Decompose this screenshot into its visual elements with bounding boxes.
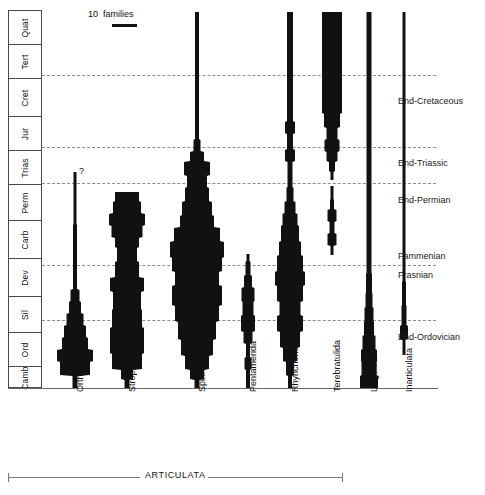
timescale-period-jur: Jur [9, 117, 41, 151]
extinction-event-label: End-Cretaceous [398, 96, 463, 106]
timescale-period-tert: Tert [9, 45, 41, 79]
timescale-period-cret: Cret [9, 79, 41, 117]
uncertainty-question-mark: ? [79, 166, 84, 176]
plot-area [42, 10, 436, 388]
period-label: Perm [20, 192, 30, 213]
period-label: Dev [20, 270, 30, 286]
period-label: Trias [20, 158, 30, 178]
bracket-tick-right [342, 473, 343, 482]
timescale-period-carb: Carb [9, 221, 41, 259]
timescale-period-perm: Perm [9, 185, 41, 221]
extinction-event-label: Fammenian [398, 251, 446, 261]
period-label: Camb [20, 366, 30, 389]
geologic-timescale-axis: QuatTertCretJurTriasPermCarbDevSilOrdCam… [8, 10, 42, 388]
extinction-event-label: End-Triassic [398, 158, 448, 168]
taxon-label-orthida: Orthida [75, 362, 85, 392]
taxon-label-terebratulida: Terebratulida [332, 340, 342, 392]
range-chart-figure: 10 families QuatTertCretJurTriasPermCarb… [0, 0, 485, 495]
timescale-period-dev: Dev [9, 259, 41, 297]
taxon-label-strophomenida: Strophomenida [127, 331, 137, 392]
timescale-period-sil: Sil [9, 297, 41, 333]
bracket-line-right [208, 477, 342, 478]
articulata-bracket: ARTICULATA [8, 473, 343, 483]
timescale-period-quat: Quat [9, 11, 41, 45]
period-label: Quat [20, 18, 30, 37]
timescale-period-ord: Ord [9, 333, 41, 367]
timescale-period-camb: Camb [9, 367, 41, 389]
taxon-label-inarticulata: Inarticulata [404, 348, 414, 392]
extinction-event-label: Frasnian [398, 270, 433, 280]
timescale-period-trias: Trias [9, 151, 41, 185]
taxon-label-lingulata: Lingulata [369, 355, 379, 392]
extinction-event-label: End-Permian [398, 195, 451, 205]
period-label: Sil [20, 309, 30, 319]
taxon-label-rhynchonellida: Rhynchonellida [290, 330, 300, 392]
period-label: Jur [20, 127, 30, 139]
spindle-inarticulata [42, 10, 436, 388]
period-label: Tert [20, 54, 30, 69]
taxon-label-spiriferida: Spiriferida [197, 351, 207, 392]
bracket-line-left [8, 477, 140, 478]
bracket-label: ARTICULATA [145, 470, 206, 480]
period-label: Ord [20, 342, 30, 357]
period-label: Carb [20, 230, 30, 249]
spindle-body [400, 12, 408, 355]
period-label: Cret [20, 89, 30, 106]
taxon-label-pentamerida: Pentamerida [248, 341, 258, 392]
extinction-event-label: End-Ordovician [398, 332, 460, 342]
